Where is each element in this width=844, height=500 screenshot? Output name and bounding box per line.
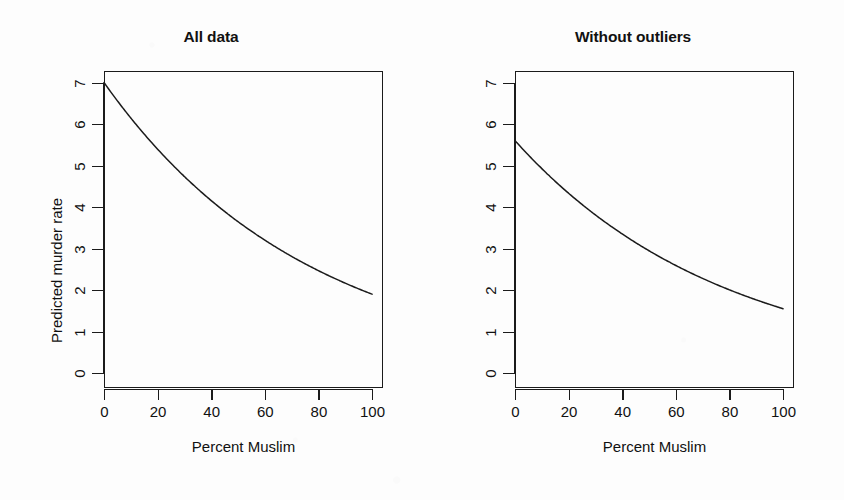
y-tick-left-1 [92, 332, 103, 333]
y-tick-label-left-0: 0 [72, 363, 87, 385]
panel-title-left: All data [0, 28, 422, 46]
y-tick-label-right-2: 2 [483, 280, 498, 302]
figure-canvas: All data 0 1 2 3 4 5 6 7 Predicted murde… [0, 0, 844, 500]
y-tick-right-0 [503, 373, 514, 374]
y-tick-label-left-1: 1 [72, 321, 87, 343]
x-tick-label-left-80: 80 [297, 404, 341, 419]
x-tick-left-60 [265, 389, 266, 400]
y-tick-label-left-7: 7 [72, 72, 87, 94]
x-tick-right-0 [515, 389, 516, 400]
y-tick-left-0 [92, 373, 103, 374]
x-tick-label-left-20: 20 [136, 404, 180, 419]
x-tick-label-right-40: 40 [601, 404, 645, 419]
y-tick-right-7 [503, 83, 514, 84]
y-tick-right-6 [503, 124, 514, 125]
x-tick-label-right-80: 80 [708, 404, 752, 419]
y-tick-label-right-7: 7 [483, 72, 498, 94]
x-axis-line-right [515, 389, 784, 390]
y-tick-left-7 [92, 83, 103, 84]
y-tick-label-right-6: 6 [483, 114, 498, 136]
plot-panel-without-outliers: Without outliers 0 1 2 3 4 5 6 7 Predict… [422, 0, 844, 500]
y-tick-left-2 [92, 290, 103, 291]
x-tick-label-right-100: 100 [762, 404, 806, 419]
x-tick-left-100 [372, 389, 373, 400]
x-tick-right-80 [729, 389, 730, 400]
x-tick-label-left-0: 0 [83, 404, 127, 419]
plot-area-right [515, 71, 794, 388]
x-axis-label-left: Percent Muslim [104, 438, 383, 455]
y-tick-right-4 [503, 207, 514, 208]
y-axis-label-left: Predicted murder rate [48, 198, 65, 343]
y-tick-right-1 [503, 332, 514, 333]
y-tick-label-right-0: 0 [483, 363, 498, 385]
y-tick-label-right-5: 5 [483, 155, 498, 177]
data-curve-left [104, 83, 372, 295]
data-curve-right [515, 141, 783, 309]
x-tick-right-100 [783, 389, 784, 400]
y-tick-left-3 [92, 249, 103, 250]
y-tick-label-left-5: 5 [72, 155, 87, 177]
y-tick-left-5 [92, 166, 103, 167]
y-tick-left-4 [92, 207, 103, 208]
x-tick-left-80 [318, 389, 319, 400]
x-tick-left-40 [211, 389, 212, 400]
x-tick-label-left-100: 100 [351, 404, 395, 419]
x-tick-label-right-0: 0 [494, 404, 538, 419]
x-tick-label-right-20: 20 [547, 404, 591, 419]
y-tick-label-left-3: 3 [72, 238, 87, 260]
y-tick-label-right-1: 1 [483, 321, 498, 343]
x-tick-left-20 [158, 389, 159, 400]
x-axis-line-left [104, 389, 373, 390]
x-tick-right-60 [676, 389, 677, 400]
y-tick-label-left-2: 2 [72, 280, 87, 302]
plot-area-left [104, 71, 383, 388]
y-tick-right-5 [503, 166, 514, 167]
x-tick-right-40 [622, 389, 623, 400]
x-tick-label-right-60: 60 [654, 404, 698, 419]
y-tick-label-left-6: 6 [72, 114, 87, 136]
x-axis-label-right: Percent Muslim [515, 438, 794, 455]
x-tick-right-20 [569, 389, 570, 400]
x-tick-label-left-60: 60 [243, 404, 287, 419]
plot-panel-all-data: All data 0 1 2 3 4 5 6 7 Predicted murde… [0, 0, 422, 500]
y-tick-left-6 [92, 124, 103, 125]
panel-title-right: Without outliers [422, 28, 844, 46]
x-tick-label-left-40: 40 [190, 404, 234, 419]
x-tick-left-0 [104, 389, 105, 400]
y-tick-right-2 [503, 290, 514, 291]
y-tick-label-right-3: 3 [483, 238, 498, 260]
y-tick-right-3 [503, 249, 514, 250]
y-tick-label-right-4: 4 [483, 197, 498, 219]
y-tick-label-left-4: 4 [72, 197, 87, 219]
